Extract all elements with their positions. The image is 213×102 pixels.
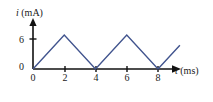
x-tick-label-4: 4	[90, 73, 102, 83]
y-axis-label-unit: (mA)	[21, 7, 43, 18]
x-axis-label: t (ms)	[175, 66, 199, 76]
x-axis-label-unit: (ms)	[180, 65, 198, 76]
y-axis-arrow-icon	[29, 18, 36, 26]
y-tick-label-0: 0	[19, 62, 24, 72]
y-axis	[29, 18, 36, 69]
y-tick-label-6: 6	[19, 35, 24, 45]
y-axis-label: i (mA)	[16, 8, 43, 18]
x-tick-label-8: 8	[152, 73, 164, 83]
x-tick-label-6: 6	[121, 73, 133, 83]
triangular-waveform-figure: i (mA) t (ms) 6 0 0 2 4 6 8	[0, 0, 213, 102]
current-waveform-line	[33, 35, 180, 69]
x-tick-label-2: 2	[59, 73, 71, 83]
x-origin-label: 0	[27, 73, 39, 83]
